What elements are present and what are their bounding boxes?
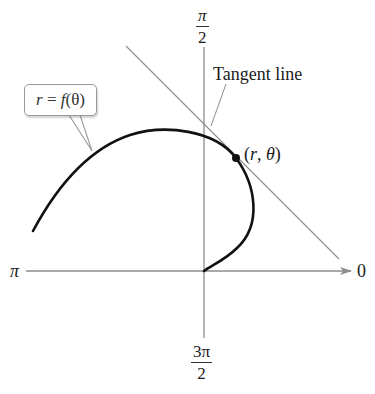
curve-label-equals: =: [43, 90, 61, 110]
tangent-leader-line: [211, 84, 226, 126]
label-3pi-over-2-denominator: 2: [197, 363, 206, 382]
callout-tail: [69, 115, 92, 151]
label-pi-over-2: π 2: [196, 7, 209, 46]
label-zero: 0: [357, 262, 366, 280]
point-label-sep: ,: [257, 144, 266, 164]
label-pi-over-2-denominator: 2: [198, 27, 207, 46]
point-label-r: r: [250, 144, 257, 164]
polar-curve: [33, 130, 253, 271]
point-label-close: ): [275, 144, 281, 164]
label-pi-over-2-numerator: π: [196, 7, 209, 27]
polar-diagram: [0, 0, 375, 394]
point-label: (r, θ): [244, 145, 281, 163]
tangency-point: [232, 154, 240, 162]
label-3pi-over-2-numerator: 3π: [191, 343, 212, 363]
curve-label-arg: (θ): [65, 90, 84, 110]
point-label-theta: θ: [266, 144, 275, 164]
label-pi: π: [10, 262, 19, 280]
curve-label-callout: r = f (θ): [24, 84, 97, 116]
curve-label-r: r: [36, 90, 43, 110]
tangent-line-label: Tangent line: [213, 65, 302, 83]
label-3pi-over-2: 3π 2: [191, 343, 212, 382]
